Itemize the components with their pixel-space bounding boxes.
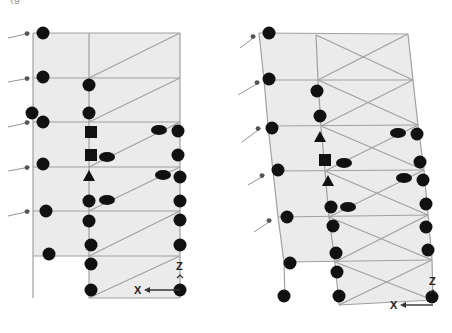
hinge-ellipse-icon — [155, 170, 171, 180]
hinge-circle-icon — [420, 221, 433, 234]
hinge-circle-icon — [43, 248, 56, 261]
hinge-circle-icon — [172, 125, 185, 138]
hinge-ellipse-icon — [336, 158, 352, 168]
hinge-circle-icon — [331, 266, 344, 279]
hinge-ellipse-icon — [151, 125, 167, 135]
load-point-icon — [25, 31, 30, 36]
hinge-circle-icon — [263, 27, 276, 40]
hinge-circle-icon — [327, 220, 340, 233]
load-point-icon — [251, 34, 256, 39]
load-point-icon — [25, 120, 30, 125]
hinge-circle-icon — [26, 107, 39, 120]
hinge-square-icon — [85, 149, 97, 161]
hinge-ellipse-icon — [99, 195, 115, 205]
load-point-icon — [25, 165, 30, 170]
hinge-circle-icon — [37, 116, 50, 129]
hinge-circle-icon — [281, 211, 294, 224]
hinge-circle-icon — [411, 128, 424, 141]
hinge-ellipse-icon — [99, 152, 115, 162]
hinge-circle-icon — [37, 158, 50, 171]
load-point-icon — [25, 76, 30, 81]
hinge-circle-icon — [426, 291, 439, 304]
hinge-circle-icon — [85, 239, 98, 252]
load-point-icon — [255, 80, 260, 85]
x-axis-label: X — [134, 284, 142, 296]
hinge-circle-icon — [174, 214, 187, 227]
diagram-canvas: (g XZXZ — [0, 0, 452, 333]
load-point-icon — [256, 126, 261, 131]
hinge-circle-icon — [40, 205, 53, 218]
hinge-circle-icon — [174, 171, 187, 184]
hinge-circle-icon — [330, 247, 343, 260]
left-frame: XZ — [8, 27, 187, 299]
load-point-icon — [267, 218, 272, 223]
hinge-ellipse-icon — [390, 128, 406, 138]
hinge-ellipse-icon — [340, 202, 356, 212]
hinge-circle-icon — [422, 244, 435, 257]
hinge-circle-icon — [272, 164, 285, 177]
hinge-circle-icon — [314, 110, 327, 123]
hinge-ellipse-icon — [396, 173, 412, 183]
hinge-circle-icon — [278, 290, 291, 303]
hinge-circle-icon — [311, 85, 324, 98]
arrowhead-icon — [400, 302, 406, 308]
hinge-circle-icon — [420, 198, 433, 211]
load-point-icon — [260, 173, 265, 178]
hinge-circle-icon — [37, 27, 50, 40]
hinge-square-icon — [319, 154, 331, 166]
figure-caption: (g — [10, 0, 20, 4]
hinge-circle-icon — [333, 290, 346, 303]
hinge-circle-icon — [417, 174, 430, 187]
hinge-circle-icon — [83, 195, 96, 208]
hinge-circle-icon — [83, 107, 96, 120]
hinge-circle-icon — [83, 79, 96, 92]
hinge-circle-icon — [174, 195, 187, 208]
hinge-square-icon — [85, 126, 97, 138]
x-axis-label: X — [390, 299, 398, 311]
hinge-circle-icon — [85, 258, 98, 271]
frame-panel-fill — [33, 33, 180, 298]
hinge-circle-icon — [263, 73, 276, 86]
right-frame: XZ — [238, 27, 439, 312]
frame-deformation-diagram: XZXZ — [0, 0, 452, 333]
z-axis-label: Z — [429, 275, 436, 287]
z-axis-label: Z — [176, 260, 183, 272]
hinge-circle-icon — [174, 239, 187, 252]
hinge-circle-icon — [85, 284, 98, 297]
hinge-circle-icon — [414, 156, 427, 169]
hinge-circle-icon — [325, 201, 338, 214]
hinge-circle-icon — [266, 122, 279, 135]
load-point-icon — [25, 209, 30, 214]
hinge-circle-icon — [172, 149, 185, 162]
hinge-circle-icon — [37, 71, 50, 84]
hinge-circle-icon — [83, 215, 96, 228]
hinge-circle-icon — [284, 257, 297, 270]
